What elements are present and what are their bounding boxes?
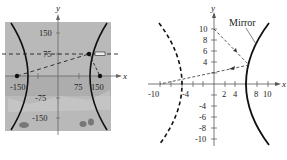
y-tick-neg8: -8 bbox=[199, 123, 206, 133]
x-tick-75: 75 bbox=[74, 82, 83, 92]
y-tick-neg10: -10 bbox=[195, 134, 206, 144]
photo-object bbox=[80, 121, 87, 127]
camera-icon bbox=[95, 52, 105, 56]
focus-left-point bbox=[15, 74, 19, 78]
y-axis-arrow-icon bbox=[56, 14, 60, 20]
y-tick-neg4: -4 bbox=[199, 101, 207, 111]
photo-object bbox=[88, 119, 94, 126]
y-tick-150: 150 bbox=[39, 28, 52, 38]
x-axis-label: x bbox=[122, 71, 127, 81]
incoming-ray bbox=[214, 29, 249, 65]
y-tick-neg6: -6 bbox=[199, 112, 206, 122]
y-axis-label: y bbox=[210, 3, 215, 13]
x-tick-4: 4 bbox=[233, 89, 238, 99]
x-tick-neg4: -4 bbox=[182, 89, 190, 99]
x-tick-8: 8 bbox=[254, 89, 258, 99]
x-tick-10: 10 bbox=[263, 89, 272, 99]
y-tick-8: 8 bbox=[203, 35, 207, 45]
right-figure: x y -10 -4 2 4 8 10 bbox=[148, 3, 286, 146]
figure-canvas: x y 150 75 -75 -150 -150 75 150 bbox=[0, 0, 287, 160]
y-tick-6: 6 bbox=[203, 46, 207, 56]
focus-right-point bbox=[98, 74, 102, 78]
y-tick-neg75: -75 bbox=[35, 93, 46, 103]
x-tick-2: 2 bbox=[222, 89, 226, 99]
mirror-point bbox=[87, 52, 91, 56]
reflected-ray bbox=[160, 65, 249, 84]
y-axis-label: y bbox=[55, 3, 60, 13]
y-tick-neg150: -150 bbox=[32, 113, 48, 123]
x-tick-neg10: -10 bbox=[148, 89, 159, 99]
ray-arrow-icon bbox=[229, 66, 235, 70]
mirror-label: Mirror bbox=[229, 17, 256, 28]
y-tick-10: 10 bbox=[199, 24, 208, 34]
y-tick-4: 4 bbox=[203, 57, 208, 67]
left-figure: x y 150 75 -75 -150 -150 75 150 bbox=[2, 3, 127, 135]
x-axis-arrow-icon bbox=[275, 82, 281, 86]
x-axis-label: x bbox=[281, 79, 286, 89]
x-axis-arrow-icon bbox=[116, 74, 122, 78]
x-tick-150: 150 bbox=[91, 82, 104, 92]
photo-object bbox=[19, 122, 29, 128]
mirror-leader-line bbox=[246, 28, 256, 44]
x-tick-neg150: -150 bbox=[10, 82, 26, 92]
